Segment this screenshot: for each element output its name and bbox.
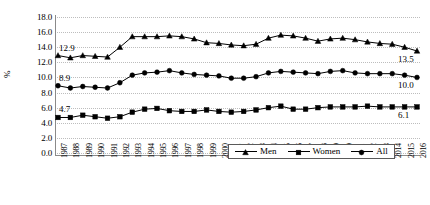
legend-label: Women bbox=[313, 147, 341, 156]
data-point-square bbox=[56, 115, 61, 120]
data-point-circle bbox=[105, 86, 110, 91]
x-axis-tick: 1987 bbox=[61, 143, 69, 158]
series-line-women bbox=[58, 106, 417, 118]
data-point-circle bbox=[241, 76, 246, 81]
data-point-square bbox=[402, 105, 407, 110]
x-axis-tick: 1997 bbox=[185, 143, 193, 158]
data-point-square bbox=[316, 105, 321, 110]
x-axis-tick: 1989 bbox=[86, 143, 94, 158]
data-point-circle bbox=[204, 73, 209, 78]
data-point-square bbox=[353, 105, 358, 110]
data-point-square bbox=[241, 109, 246, 114]
legend-item-men[interactable]: Men bbox=[235, 147, 277, 156]
data-point-circle bbox=[377, 71, 382, 76]
x-axis-tick: 1990 bbox=[98, 143, 106, 158]
data-point-circle bbox=[278, 69, 283, 74]
data-point-square bbox=[279, 104, 284, 109]
data-point-square bbox=[390, 105, 395, 110]
data-point-circle bbox=[340, 68, 345, 73]
data-point-circle bbox=[229, 76, 234, 81]
data-point-square bbox=[296, 150, 301, 155]
legend-item-women[interactable]: Women bbox=[288, 147, 341, 156]
x-axis-tick: 2016 bbox=[420, 143, 428, 158]
start-value-label-all: 8.9 bbox=[59, 74, 70, 83]
data-point-square bbox=[415, 105, 420, 110]
data-point-circle bbox=[56, 83, 61, 88]
data-point-circle bbox=[192, 72, 197, 77]
data-point-circle bbox=[130, 73, 135, 78]
data-point-circle bbox=[167, 68, 172, 73]
legend-label: Men bbox=[260, 147, 277, 156]
data-point-square bbox=[328, 105, 333, 110]
data-point-circle bbox=[68, 86, 73, 91]
legend-square-icon bbox=[288, 148, 310, 156]
data-point-square bbox=[68, 115, 73, 120]
data-point-circle bbox=[266, 71, 271, 76]
data-point-circle bbox=[80, 84, 85, 89]
data-point-circle bbox=[328, 69, 333, 74]
x-axis-tick: 1996 bbox=[172, 143, 180, 158]
data-point-circle bbox=[303, 71, 308, 76]
series-line-all bbox=[58, 71, 417, 88]
data-point-square bbox=[254, 108, 259, 113]
data-point-square bbox=[217, 109, 222, 114]
data-point-circle bbox=[179, 71, 184, 76]
data-point-circle bbox=[415, 75, 420, 80]
data-point-circle bbox=[93, 85, 98, 90]
data-point-circle bbox=[155, 70, 160, 75]
line-chart: % 18.016.014.012.010.08.06.04.02.00.0 19… bbox=[0, 0, 430, 205]
legend-circle-icon bbox=[351, 148, 373, 156]
data-point-triangle bbox=[243, 149, 249, 154]
data-point-square bbox=[167, 108, 172, 113]
data-point-square bbox=[80, 113, 85, 118]
end-value-label-men: 13.5 bbox=[398, 55, 414, 64]
x-axis-tick: 1992 bbox=[123, 143, 131, 158]
data-point-square bbox=[192, 109, 197, 114]
x-axis-tick: 1999 bbox=[210, 143, 218, 158]
data-point-circle bbox=[142, 71, 147, 76]
data-point-circle bbox=[217, 74, 222, 79]
data-point-square bbox=[118, 114, 123, 119]
data-point-circle bbox=[359, 150, 364, 155]
x-axis-tick: 1988 bbox=[73, 143, 81, 158]
data-point-square bbox=[105, 116, 110, 121]
legend-triangle-icon bbox=[235, 148, 257, 156]
data-point-square bbox=[142, 107, 147, 112]
x-axis-tick: 1994 bbox=[148, 143, 156, 158]
data-point-square bbox=[365, 104, 370, 109]
data-point-square bbox=[291, 107, 296, 112]
data-point-circle bbox=[390, 71, 395, 76]
start-value-label-women: 4.7 bbox=[59, 105, 70, 114]
x-axis-tick: 1991 bbox=[111, 143, 119, 158]
data-point-square bbox=[378, 105, 383, 110]
data-point-circle bbox=[254, 74, 259, 79]
data-point-square bbox=[93, 114, 98, 119]
data-point-circle bbox=[117, 80, 122, 85]
data-point-square bbox=[229, 110, 234, 115]
end-value-label-all: 10.0 bbox=[398, 81, 414, 90]
data-point-square bbox=[130, 110, 135, 115]
series-line-men bbox=[58, 35, 417, 58]
data-point-circle bbox=[353, 71, 358, 76]
series-layer bbox=[0, 0, 430, 205]
legend-label: All bbox=[376, 147, 388, 156]
data-point-square bbox=[204, 108, 209, 113]
data-point-square bbox=[340, 105, 345, 110]
start-value-label-men: 12.9 bbox=[59, 44, 75, 53]
data-point-square bbox=[266, 105, 271, 110]
data-point-circle bbox=[316, 71, 321, 76]
data-point-square bbox=[179, 109, 184, 114]
x-axis-tick: 1998 bbox=[197, 143, 205, 158]
x-axis-tick: 2015 bbox=[408, 143, 416, 158]
data-point-circle bbox=[291, 70, 296, 75]
x-axis-tick: 1995 bbox=[160, 143, 168, 158]
data-point-circle bbox=[365, 71, 370, 76]
x-axis-tick: 1993 bbox=[135, 143, 143, 158]
data-point-square bbox=[155, 106, 160, 111]
data-point-triangle bbox=[55, 53, 61, 58]
legend-item-all[interactable]: All bbox=[351, 147, 388, 156]
data-point-circle bbox=[402, 73, 407, 78]
data-point-square bbox=[303, 107, 308, 112]
end-value-label-women: 6.1 bbox=[398, 111, 409, 120]
chart-legend: MenWomenAll bbox=[228, 144, 395, 159]
